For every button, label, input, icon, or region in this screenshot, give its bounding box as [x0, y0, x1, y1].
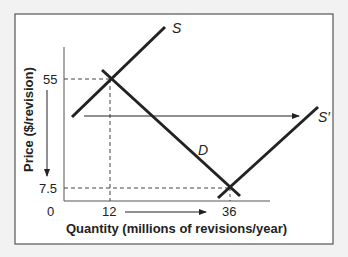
x-tick-0: 0: [47, 204, 54, 219]
x-axis-title: Quantity (millions of revisions/year): [66, 221, 287, 236]
supply-demand-chart: S S′ D 55 7.5 0 12 36 Quantity (millions…: [0, 0, 348, 257]
chart-border: [15, 14, 333, 244]
y-tick-7-5: 7.5: [39, 181, 57, 196]
label-d: D: [198, 142, 208, 158]
x-tick-36: 36: [222, 204, 236, 219]
label-s: S: [172, 20, 182, 36]
y-tick-55: 55: [43, 72, 57, 87]
label-s-prime: S′: [318, 109, 331, 125]
y-axis-title: Price ($/revision): [21, 67, 36, 172]
x-tick-12: 12: [102, 204, 116, 219]
